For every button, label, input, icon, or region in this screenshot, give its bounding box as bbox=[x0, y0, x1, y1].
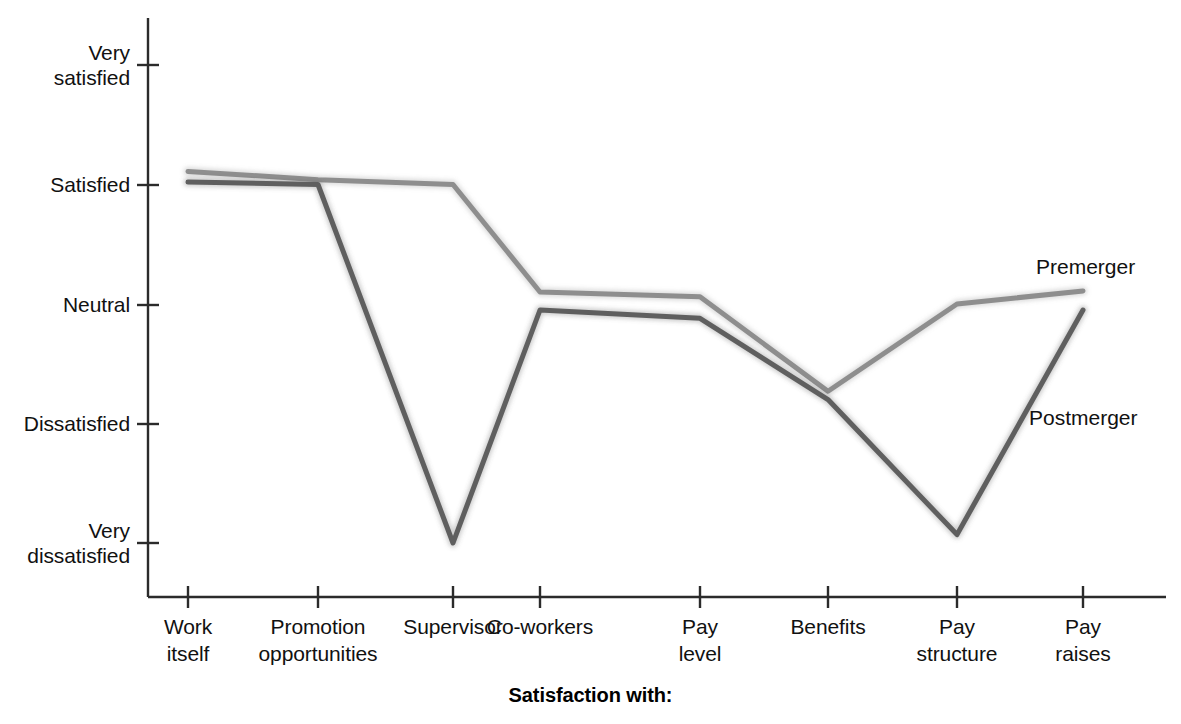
line-chart-figure: Very satisfiedSatisfiedNeutralDissatisfi… bbox=[0, 0, 1181, 724]
y-axis-tick-label: Dissatisfied bbox=[24, 411, 130, 436]
chart-series-lines bbox=[188, 171, 1083, 543]
y-axis-tick-label: Satisfied bbox=[50, 172, 130, 197]
y-axis-tick-label: Neutral bbox=[63, 292, 130, 317]
chart-axes bbox=[148, 18, 1166, 597]
x-axis-title: Satisfaction with: bbox=[0, 684, 1181, 707]
series-line-postmerger bbox=[188, 182, 1083, 543]
series-label-postmerger: Postmerger bbox=[1029, 406, 1138, 430]
series-line-halo-postmerger bbox=[188, 182, 1083, 543]
series-label-premerger: Premerger bbox=[1036, 255, 1135, 279]
x-axis-tick-label: Pay raises bbox=[983, 613, 1181, 667]
y-axis-tick-label: Very satisfied bbox=[54, 40, 130, 90]
y-axis-tick-label: Very dissatisfied bbox=[27, 518, 130, 568]
